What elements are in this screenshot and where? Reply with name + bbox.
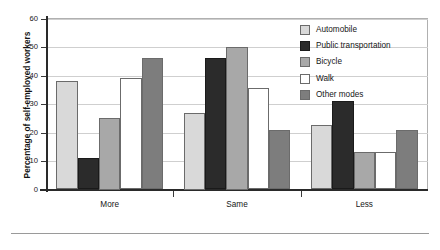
legend-item-label: Automobile [316,26,357,34]
bar [354,152,375,189]
legend-swatch-icon [300,90,310,100]
y-tick-label: 40 [20,72,38,80]
legend-swatch-icon [300,41,310,51]
chart-legend: AutomobilePublic transportationBicycleWa… [300,22,432,103]
bar [99,118,120,189]
x-group-label-less: Less [334,200,394,209]
bar [56,81,77,189]
x-group-label-same: Same [207,200,267,209]
chart-figure: Percentage of self-employed workers 0102… [0,0,440,250]
bar [226,47,247,190]
y-tick-label: 10 [20,157,38,165]
bottom-divider-rule [11,233,429,234]
bar [269,130,290,190]
y-tick-label: 60 [20,15,38,23]
y-tick-label-text: 50 [22,43,38,51]
bar [184,113,205,190]
y-tick-label-text: 10 [22,157,38,165]
y-tick-label-text: 40 [22,72,38,80]
y-tick-label-text: 30 [22,100,38,108]
gridline [46,19,428,20]
y-tick-label: 30 [20,100,38,108]
y-axis-line [46,16,48,192]
bar [120,78,141,189]
legend-item-label: Public transportation [316,42,391,50]
legend-swatch-icon [300,25,310,35]
bar [205,58,226,189]
bar [375,152,396,189]
legend-item[interactable]: Bicycle [300,54,432,70]
y-tick-label-text: 0 [22,186,38,194]
y-tick-label-text: 20 [22,129,38,137]
bar [248,88,269,189]
bar [78,158,99,189]
legend-item-label: Bicycle [316,58,342,66]
bar [142,58,163,189]
legend-item[interactable]: Walk [300,71,432,87]
bar [332,101,353,189]
legend-item-label: Walk [316,75,334,83]
x-tick-mark [301,191,302,197]
y-tick-label: 20 [20,129,38,137]
y-tick-label: 50 [20,43,38,51]
legend-item[interactable]: Public transportation [300,38,432,54]
x-tick-mark [173,191,174,197]
bar [311,125,332,189]
legend-swatch-icon [300,57,310,67]
legend-item[interactable]: Other modes [300,87,432,103]
legend-swatch-icon [300,74,310,84]
x-group-label-more: More [80,200,140,209]
y-tick-label-text: 60 [22,15,38,23]
clipped-top-text [14,0,426,5]
y-tick-label: 0 [20,186,38,194]
legend-item[interactable]: Automobile [300,22,432,38]
legend-item-label: Other modes [316,91,363,99]
bar [396,130,417,190]
